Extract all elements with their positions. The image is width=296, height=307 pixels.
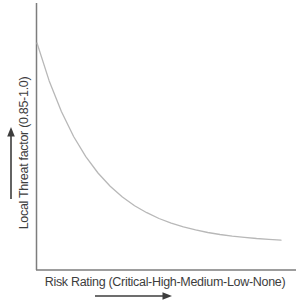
threat-factor-chart: Local Threat factor (0.85-1.0) Risk Rati… bbox=[0, 0, 296, 307]
right-arrow-icon bbox=[95, 292, 172, 300]
chart-canvas bbox=[0, 0, 296, 307]
x-axis-label: Risk Rating (Critical-High-Medium-Low-No… bbox=[45, 275, 286, 289]
up-arrow-icon bbox=[7, 127, 15, 199]
y-axis-label: Local Threat factor (0.85-1.0) bbox=[17, 77, 31, 230]
threat-curve bbox=[37, 43, 281, 240]
